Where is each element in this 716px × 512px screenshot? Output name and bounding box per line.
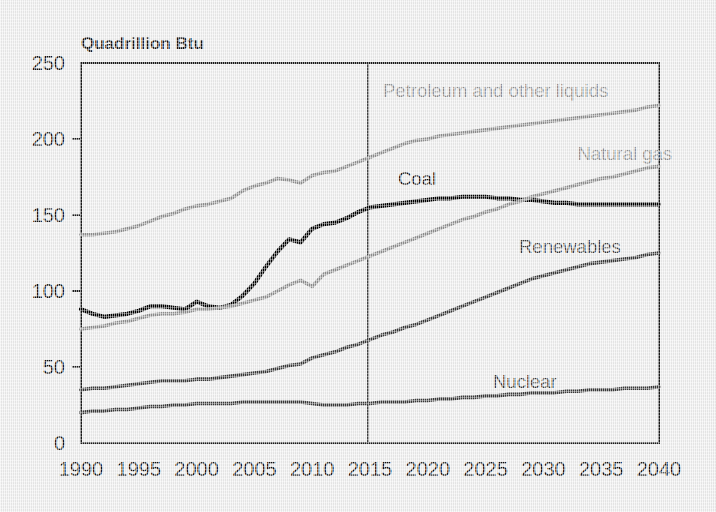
series-line-renewables	[81, 253, 659, 390]
axis-title: Quadrillion Btu	[81, 34, 204, 53]
y-axis-ticks	[72, 139, 81, 367]
series-label-nuclear: Nuclear	[493, 371, 557, 392]
x-tick-label: 2025	[463, 458, 508, 480]
chart-page: 050100150200250 199019952000200520102015…	[0, 0, 716, 512]
y-tick-label: 200	[32, 128, 65, 150]
x-tick-label: 2005	[232, 458, 277, 480]
x-tick-label: 2040	[637, 458, 682, 480]
series-label-renewables: Renewables	[519, 236, 621, 257]
y-tick-label: 250	[32, 52, 65, 74]
x-tick-label: 2020	[406, 458, 451, 480]
y-axis-tick-labels: 050100150200250	[32, 52, 65, 454]
x-tick-label: 2010	[290, 458, 335, 480]
x-axis-tick-labels: 1990199520002005201020152020202520302035…	[59, 458, 682, 480]
y-tick-label: 0	[54, 432, 65, 454]
series-label-petroleum-and-other-liquids: Petroleum and other liquids	[383, 80, 608, 101]
series-label-natural-gas: Natural gas	[577, 143, 672, 164]
y-tick-label: 100	[32, 280, 65, 302]
energy-consumption-line-chart: 050100150200250 199019952000200520102015…	[0, 0, 716, 512]
x-tick-label: 1995	[117, 458, 162, 480]
x-tick-label: 2035	[579, 458, 624, 480]
series-label-coal: Coal	[398, 168, 436, 189]
x-tick-label: 2015	[348, 458, 393, 480]
y-tick-label: 50	[43, 356, 65, 378]
x-tick-label: 2030	[521, 458, 566, 480]
series-annotation-labels: Petroleum and other liquidsCoalNatural g…	[383, 80, 672, 392]
series-paths	[81, 106, 659, 413]
x-tick-label: 1990	[59, 458, 104, 480]
series-line-nuclear	[81, 387, 659, 413]
series-line-petroleum-and-other-liquids	[81, 106, 659, 235]
y-tick-label: 150	[32, 204, 65, 226]
x-tick-label: 2000	[174, 458, 219, 480]
